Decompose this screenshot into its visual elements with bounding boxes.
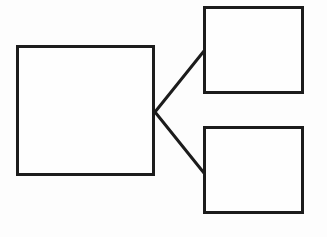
edge-root-to-top (155, 51, 204, 112)
child-top-box (203, 6, 304, 94)
root-box (16, 45, 155, 176)
edge-root-to-bottom (155, 112, 204, 173)
diagram-canvas (0, 0, 327, 237)
child-bottom-box (203, 126, 304, 214)
